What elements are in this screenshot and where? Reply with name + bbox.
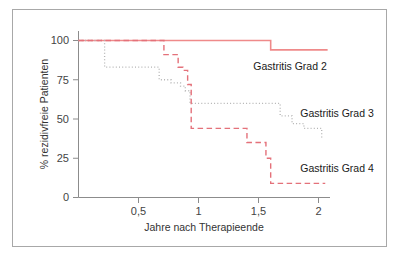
y-tick-label-75: 75 xyxy=(57,74,69,86)
x-tick-label-1: 1 xyxy=(195,205,201,217)
series-label-gastritis-grad-4: Gastritis Grad 4 xyxy=(300,162,374,174)
series-line-gastritis-grad-3 xyxy=(79,41,322,138)
y-tick-label-25: 25 xyxy=(57,152,69,164)
series-label-gastritis-grad-3: Gastritis Grad 3 xyxy=(300,107,374,119)
y-axis-title: % rezidivfreie Patienten xyxy=(38,59,50,169)
x-axis-ticks xyxy=(139,198,319,204)
x-axis-title: Jahre nach Therapieende xyxy=(144,221,264,233)
y-tick-label-100: 100 xyxy=(51,34,69,46)
series-line-gastritis-grad-2 xyxy=(79,41,328,50)
y-tick-label-50: 50 xyxy=(57,113,69,125)
y-axis-ticks xyxy=(73,41,79,198)
y-tick-label-0: 0 xyxy=(63,191,69,203)
x-tick-label-0-5: 0,5 xyxy=(131,205,146,217)
figure-container: 100 75 50 25 0 0,5 1 1,5 2 Jahre nach Th… xyxy=(0,0,399,256)
chart-plot: 100 75 50 25 0 0,5 1 1,5 2 Jahre nach Th… xyxy=(0,0,399,256)
x-tick-label-1-5: 1,5 xyxy=(251,205,266,217)
x-tick-label-2: 2 xyxy=(315,205,321,217)
series-label-gastritis-grad-2: Gastritis Grad 2 xyxy=(253,60,327,72)
